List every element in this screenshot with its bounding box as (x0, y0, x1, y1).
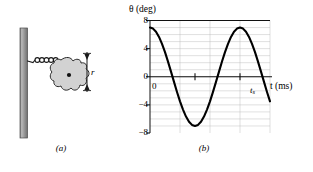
caption-panel-a: (a) (41, 143, 81, 153)
origin-label: 0 (152, 81, 162, 91)
x-axis-label: t (ms) (270, 81, 292, 91)
spring-block-svg (0, 0, 140, 140)
y-tick-label-neg8: −8 (127, 127, 148, 137)
caption-panel-b: (b) (184, 143, 224, 153)
y-tick-label-0: 0 (130, 71, 148, 81)
y-tick-label-8: 8 (130, 15, 148, 25)
y-tick-label-neg4: −4 (127, 99, 148, 109)
center-dot-icon (67, 73, 71, 77)
ts-annotation-sub: s (253, 88, 256, 95)
radius-label: r (91, 67, 95, 77)
y-tick-label-4: 4 (130, 43, 148, 53)
physics-figure: r (a) θ (deg) t (ms) 8 4 0 −4 −8 0 ts (0, 0, 313, 172)
irregular-blob-icon (50, 57, 89, 90)
ts-annotation: ts (250, 85, 255, 95)
y-axis-label: θ (deg) (129, 4, 156, 14)
hatched-wall-icon (20, 28, 28, 138)
